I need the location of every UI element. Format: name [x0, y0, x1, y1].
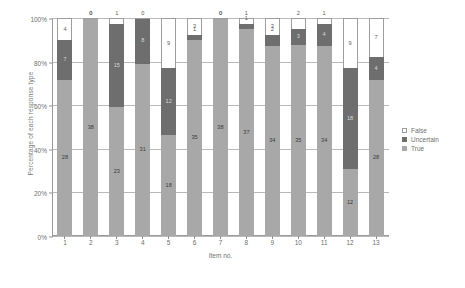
bar-segment-uncertain[interactable]: 3 [291, 29, 306, 45]
legend-swatch-icon [402, 128, 407, 133]
bar-column[interactable]: 1137 [239, 18, 254, 236]
bar-column[interactable]: 3135 [187, 18, 202, 236]
bar-segment-true[interactable]: 34 [265, 46, 280, 236]
bar-segment-value: 38 [88, 125, 94, 131]
bar-segment-value: 31 [140, 147, 146, 153]
bar-segment-false[interactable]: 7 [369, 18, 384, 57]
bar-segment-value: 38 [217, 125, 223, 131]
y-tick-label: 60% [34, 103, 47, 110]
bar-segment-false[interactable]: 9 [343, 18, 358, 68]
plot-area: 0%20%40%60%80%100% 472800381152308319121… [52, 18, 389, 236]
bar-column[interactable]: 2335 [291, 18, 306, 236]
bar-segment-true[interactable]: 23 [109, 107, 124, 236]
bar-segment-value: 4 [63, 27, 66, 33]
legend-label: False [411, 127, 427, 134]
y-tick-label: 0% [38, 234, 47, 241]
bar-segment-value: 35 [191, 135, 197, 141]
bar-column[interactable]: 11523 [109, 18, 124, 236]
x-tick-label: 2 [83, 239, 98, 251]
bar-column[interactable]: 91812 [343, 18, 358, 236]
y-axis-title: Percentage of each response type [27, 34, 34, 214]
x-tick-label: 10 [291, 239, 306, 251]
bar-segment-value: 9 [167, 41, 170, 47]
bar-column[interactable]: 4728 [57, 18, 72, 236]
bar-segment-true[interactable]: 38 [213, 19, 228, 236]
x-tick-label: 5 [161, 239, 176, 251]
bar-segment-uncertain[interactable]: 4 [317, 24, 332, 46]
x-tick-label: 11 [317, 239, 332, 251]
bar-segment-true[interactable]: 31 [135, 64, 150, 237]
bar-segment-uncertain[interactable]: 8 [135, 19, 150, 64]
x-tick-label: 9 [265, 239, 280, 251]
bar-segment-true[interactable]: 35 [291, 45, 306, 236]
bar-segment-value: 8 [141, 38, 144, 44]
bar-segment-value: 28 [373, 155, 379, 161]
x-tick-label: 3 [109, 239, 124, 251]
legend-label: Uncertain [411, 136, 439, 143]
bar-column[interactable]: 0038 [213, 18, 228, 236]
y-tick-label: 20% [34, 190, 47, 197]
bar-segment-uncertain[interactable]: 2 [265, 35, 280, 46]
legend-item[interactable]: Uncertain [402, 135, 439, 144]
bar-segment-value: 0 [219, 11, 222, 17]
y-tick-label: 40% [34, 146, 47, 153]
bar-segment-value: 0 [89, 11, 92, 17]
bar-column[interactable]: 0831 [135, 18, 150, 236]
legend-item[interactable]: True [402, 144, 439, 153]
bar-segment-value: 18 [166, 183, 172, 189]
legend-swatch-icon [402, 146, 407, 151]
bar-segment-true[interactable]: 38 [83, 19, 98, 236]
bar-segment-value: 2 [271, 27, 274, 33]
x-tick-label: 6 [187, 239, 202, 251]
bar-segment-uncertain[interactable]: 7 [57, 40, 72, 79]
bar-segment-value: 9 [349, 41, 352, 47]
bar-segment-true[interactable]: 18 [161, 135, 176, 236]
bar-segment-true[interactable]: 28 [369, 80, 384, 237]
bar-segment-value: 4 [323, 32, 326, 38]
bar-segment-true[interactable]: 12 [343, 169, 358, 236]
bar-column[interactable]: 1434 [317, 18, 332, 236]
bar-segment-true[interactable]: 35 [187, 40, 202, 236]
bar-segment-value: 18 [347, 116, 353, 122]
bar-column[interactable]: 3234 [265, 18, 280, 236]
x-tick-label: 12 [343, 239, 358, 251]
x-tick-label: 4 [135, 239, 150, 251]
bar-segment-value: 1 [245, 16, 248, 22]
legend-swatch-icon [402, 137, 407, 142]
x-axis-title: Item no. [52, 252, 389, 259]
bar-segment-value: 3 [297, 34, 300, 40]
chart-legend: FalseUncertainTrue [402, 126, 439, 153]
bar-segment-value: 28 [62, 155, 68, 161]
bar-column[interactable]: 91218 [161, 18, 176, 236]
bar-segment-false[interactable]: 9 [161, 18, 176, 68]
bar-segment-value: 34 [321, 138, 327, 144]
bar-segment-uncertain[interactable]: 15 [109, 24, 124, 108]
legend-label: True [411, 145, 424, 152]
bar-segment-value: 1 [115, 11, 118, 17]
bar-segment-true[interactable]: 37 [239, 29, 254, 236]
bar-segment-value: 7 [63, 57, 66, 63]
bar-segment-value: 7 [374, 35, 377, 41]
bar-segment-true[interactable]: 34 [317, 46, 332, 236]
bar-segment-value: 23 [114, 169, 120, 175]
bar-segment-value: 1 [323, 11, 326, 17]
bar-segment-value: 4 [374, 66, 377, 72]
bar-segment-value: 34 [269, 138, 275, 144]
x-tick-label: 1 [57, 239, 72, 251]
bar-segment-false[interactable]: 2 [291, 18, 306, 29]
legend-item[interactable]: False [402, 126, 439, 135]
bar-segment-true[interactable]: 28 [57, 80, 72, 237]
x-tick-labels: 12345678910111213 [52, 239, 389, 251]
bar-segment-value: 1 [193, 27, 196, 33]
bar-segment-uncertain[interactable]: 12 [161, 68, 176, 135]
x-tick-label: 8 [239, 239, 254, 251]
bar-segment-false[interactable]: 4 [57, 18, 72, 40]
bar-column[interactable]: 7428 [369, 18, 384, 236]
bar-segment-value: 0 [141, 11, 144, 17]
x-tick-label: 7 [213, 239, 228, 251]
bar-column[interactable]: 0038 [83, 18, 98, 236]
bar-segment-value: 35 [295, 138, 301, 144]
bar-segment-value: 37 [243, 130, 249, 136]
bar-segment-uncertain[interactable]: 4 [369, 57, 384, 79]
bar-segment-uncertain[interactable]: 18 [343, 68, 358, 169]
